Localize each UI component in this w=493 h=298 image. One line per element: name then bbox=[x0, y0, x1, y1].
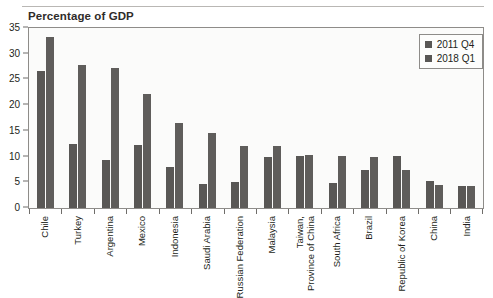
bar bbox=[102, 160, 110, 208]
y-axis-tick-label: 30 bbox=[9, 47, 20, 58]
legend-label: 2018 Q1 bbox=[437, 53, 475, 64]
x-axis-label: Malaysia bbox=[267, 216, 278, 254]
chart-title: Percentage of GDP bbox=[28, 10, 134, 22]
x-axis-labels: ChileTurkeyArgentinaMexicoIndonesiaSaudi… bbox=[29, 214, 483, 294]
bars-layer bbox=[29, 28, 483, 208]
bar bbox=[370, 157, 378, 208]
chart-legend: 2011 Q42018 Q1 bbox=[419, 34, 483, 69]
x-axis-label: Turkey bbox=[72, 216, 83, 245]
x-axis-label: Saudi Arabia bbox=[202, 216, 213, 270]
bar bbox=[426, 181, 434, 208]
bar bbox=[134, 145, 142, 208]
x-axis-label-cell: Mexico bbox=[126, 214, 158, 294]
bar bbox=[402, 170, 410, 208]
x-axis-label: Russian Federation bbox=[234, 216, 245, 298]
y-axis-tick-mark bbox=[23, 181, 28, 182]
x-axis-label-cell: Malaysia bbox=[256, 214, 288, 294]
bar bbox=[143, 94, 151, 208]
bar bbox=[69, 144, 77, 208]
y-axis-tick-mark bbox=[23, 155, 28, 156]
y-axis-tick-mark bbox=[23, 78, 28, 79]
x-axis-label-cell: South Africa bbox=[321, 214, 353, 294]
bar bbox=[338, 156, 346, 208]
x-axis-label: Taiwan, Province of China bbox=[294, 216, 315, 296]
bar bbox=[458, 186, 466, 208]
x-axis-label-cell: Argentina bbox=[94, 214, 126, 294]
x-axis-label: Republic of Korea bbox=[397, 216, 408, 292]
bar-group bbox=[94, 28, 126, 208]
bar-group bbox=[321, 28, 353, 208]
bar bbox=[273, 146, 281, 208]
y-axis-tick-label: 15 bbox=[9, 124, 20, 135]
legend-item[interactable]: 2018 Q1 bbox=[425, 53, 475, 64]
x-axis-label-cell: Saudi Arabia bbox=[191, 214, 223, 294]
bar bbox=[467, 186, 475, 208]
y-axis: 05101520253035 bbox=[0, 27, 28, 209]
bar-group bbox=[288, 28, 320, 208]
bar-group bbox=[386, 28, 418, 208]
bar bbox=[199, 184, 207, 208]
y-axis-tick-label: 5 bbox=[14, 176, 20, 187]
y-axis-tick-label: 25 bbox=[9, 73, 20, 84]
bar-group bbox=[191, 28, 223, 208]
y-axis-tick-mark bbox=[23, 27, 28, 28]
x-axis-label-cell: Brazil bbox=[353, 214, 385, 294]
bar bbox=[393, 156, 401, 208]
bar-group bbox=[353, 28, 385, 208]
bar bbox=[435, 185, 443, 208]
x-axis-label-cell: Indonesia bbox=[159, 214, 191, 294]
x-axis-label-cell: India bbox=[450, 214, 482, 294]
x-axis-label-cell: Turkey bbox=[61, 214, 93, 294]
x-axis-label: India bbox=[461, 216, 472, 237]
bar bbox=[78, 65, 86, 208]
x-axis-label: Brazil bbox=[364, 216, 375, 240]
x-axis-label: Indonesia bbox=[170, 216, 181, 257]
bar bbox=[264, 157, 272, 208]
x-axis-label-cell: Russian Federation bbox=[224, 214, 256, 294]
x-axis-label-cell: Taiwan, Province of China bbox=[288, 214, 320, 294]
x-axis-label: South Africa bbox=[332, 216, 343, 267]
legend-item[interactable]: 2011 Q4 bbox=[425, 39, 475, 50]
bar bbox=[296, 156, 304, 208]
x-axis-label: Mexico bbox=[137, 216, 148, 246]
bar-group bbox=[61, 28, 93, 208]
bar bbox=[111, 68, 119, 208]
bar bbox=[46, 37, 54, 208]
bar bbox=[175, 123, 183, 208]
legend-label: 2011 Q4 bbox=[437, 39, 475, 50]
bar bbox=[361, 170, 369, 208]
x-axis-label-cell: Chile bbox=[29, 214, 61, 294]
bar-group bbox=[29, 28, 61, 208]
y-axis-tick-mark bbox=[23, 207, 28, 208]
x-axis-label: Chile bbox=[40, 216, 51, 238]
x-axis-label-cell: Republic of Korea bbox=[386, 214, 418, 294]
y-axis-tick-label: 10 bbox=[9, 150, 20, 161]
y-axis-tick-label: 0 bbox=[14, 202, 20, 213]
bar-group bbox=[256, 28, 288, 208]
y-axis-tick-mark bbox=[23, 129, 28, 130]
y-axis-tick-mark bbox=[23, 52, 28, 53]
bar bbox=[166, 167, 174, 208]
bar bbox=[231, 182, 239, 208]
bar-group bbox=[224, 28, 256, 208]
bar-group bbox=[126, 28, 158, 208]
bar bbox=[329, 183, 337, 208]
bar bbox=[305, 155, 313, 208]
x-axis-label-cell: China bbox=[418, 214, 450, 294]
x-axis-label: Argentina bbox=[105, 216, 116, 257]
bar bbox=[208, 133, 216, 208]
y-axis-tick-mark bbox=[23, 104, 28, 105]
bar-group bbox=[159, 28, 191, 208]
bar bbox=[37, 71, 45, 208]
bar bbox=[240, 146, 248, 208]
legend-swatch-icon bbox=[425, 41, 432, 48]
y-axis-tick-label: 35 bbox=[9, 22, 20, 33]
y-axis-tick-label: 20 bbox=[9, 99, 20, 110]
x-axis-label: China bbox=[429, 216, 440, 241]
legend-swatch-icon bbox=[425, 55, 432, 62]
header-divider bbox=[22, 6, 484, 7]
